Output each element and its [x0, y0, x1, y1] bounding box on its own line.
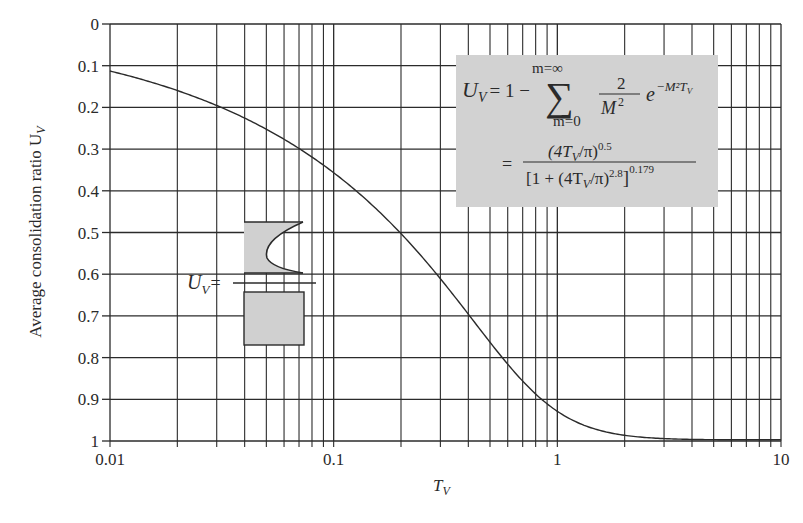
- exp-base: e: [646, 83, 655, 105]
- x-axis-ticks: 0.010.1110: [95, 441, 789, 469]
- frac1-numerator: 2: [617, 74, 626, 93]
- y-tick-label: 0.9: [78, 390, 99, 409]
- x-tick-label: 10: [773, 450, 790, 469]
- x-axis-title-sub: V: [442, 484, 451, 498]
- svg-text:UV=: UV=: [187, 271, 221, 297]
- frac2-den-b: /π): [590, 169, 609, 188]
- eq2-sign: =: [502, 154, 512, 174]
- frac2-den-outer-exp: 0.179: [629, 163, 654, 175]
- y-tick-label: 0.6: [78, 265, 99, 284]
- exp-power: −M²T: [656, 79, 687, 94]
- x-tick-label: 0.1: [323, 450, 344, 469]
- y-tick-label: 0: [91, 15, 100, 34]
- y-tick-label: 0.7: [78, 307, 100, 326]
- formula-eq1: = 1 −: [489, 80, 529, 101]
- frac1-den-exp: 2: [618, 95, 624, 109]
- frac2-den-exp: 2.8: [609, 167, 623, 179]
- y-tick-label: 0.8: [78, 349, 99, 368]
- formula-lhs-sub: V: [478, 90, 488, 105]
- sum-lower-limit: m=0: [553, 113, 581, 129]
- y-axis-title: Average consolidation ratio U: [26, 134, 45, 338]
- inset-bottom-rect: [244, 292, 304, 345]
- frac2-den-a: [1 + (4T: [526, 169, 583, 188]
- y-tick-label: 1: [91, 432, 100, 451]
- x-tick-label: 1: [553, 450, 562, 469]
- y-tick-label: 0.3: [78, 140, 99, 159]
- y-tick-label: 0.5: [78, 224, 99, 243]
- svg-text:TV: TV: [433, 476, 451, 498]
- svg-text:Average consolidation ratio UV: Average consolidation ratio UV: [26, 125, 48, 338]
- frac2-num-a: (4T: [548, 142, 573, 161]
- frac2-num-exp: 0.5: [598, 140, 612, 152]
- y-tick-label: 0.2: [78, 98, 99, 117]
- y-tick-label: 0.4: [78, 182, 100, 201]
- y-axis-ticks: 00.10.20.30.40.50.60.70.80.91: [78, 15, 110, 451]
- inset-label-eq: =: [210, 273, 220, 293]
- y-tick-label: 0.1: [78, 57, 99, 76]
- x-tick-label: 0.01: [95, 450, 125, 469]
- inset-sketch: UV=: [187, 222, 316, 345]
- frac2-num-b: /π): [579, 142, 598, 161]
- inset-top-shape: [244, 222, 303, 273]
- y-axis-title-sub: V: [34, 125, 48, 134]
- consolidation-chart: 00.10.20.30.40.50.60.70.80.91 0.010.1110…: [0, 0, 803, 523]
- frac1-den-main: M: [600, 98, 617, 118]
- svg-text:UV= 1 −: UV= 1 −: [462, 77, 530, 105]
- formula-box: m=∞ UV= 1 − ∑ m=0 2 M2 e−M²TV = (4TV/π)0…: [456, 55, 718, 207]
